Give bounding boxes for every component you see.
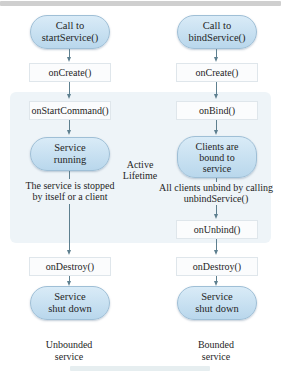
clients-bound-line2: bound to — [199, 152, 234, 163]
right-shut-down-line2: shut down — [195, 303, 238, 315]
arrowhead-right-3 — [214, 130, 218, 135]
right-on-destroy-label: onDestroy() — [193, 261, 241, 272]
arrowhead-right-2 — [214, 94, 218, 99]
active-lifetime-label-line1: Active — [115, 159, 165, 170]
cropped-text-top — [0, 1, 281, 6]
on-bind-label: onBind() — [199, 105, 235, 116]
service-running-line2: running — [54, 154, 87, 166]
arrowhead-left-3 — [67, 130, 71, 135]
bounded-caption-line2: service — [176, 351, 256, 363]
unbind-note-line1: All clients unbind by calling — [150, 182, 281, 193]
unbounded-caption-line2: service — [29, 351, 109, 363]
bounded-caption-line1: Bounded — [176, 339, 256, 351]
active-lifetime-label: Active Lifetime — [115, 159, 165, 181]
clients-bound-line3: service — [203, 163, 231, 174]
bounded-caption: Bounded service — [176, 339, 256, 363]
on-bind-box: onBind() — [176, 101, 258, 120]
bind-service-line2: bindService() — [188, 32, 245, 44]
unbounded-caption-line1: Unbounded — [29, 339, 109, 351]
unbounded-caption: Unbounded service — [29, 339, 109, 363]
left-shut-down-line2: shut down — [48, 303, 91, 315]
left-on-create-box: onCreate() — [29, 63, 111, 82]
right-shut-down-line1: Service — [201, 291, 233, 303]
arrowhead-left-1 — [67, 57, 71, 62]
arrowhead-left-2 — [67, 94, 71, 99]
start-service-line2: startService() — [42, 32, 99, 44]
left-shut-down-node: Service shut down — [30, 286, 110, 320]
right-on-create-label: onCreate() — [196, 67, 239, 78]
bind-service-node: Call to bindService() — [177, 15, 257, 49]
clients-bound-node: Clients are bound to service — [177, 136, 257, 178]
start-service-node: Call to startService() — [30, 15, 110, 49]
stop-note: The service is stopped by itself or a cl… — [12, 180, 128, 202]
right-shut-down-node: Service shut down — [177, 286, 257, 320]
service-running-node: Service running — [30, 137, 110, 171]
right-on-destroy-box: onDestroy() — [176, 257, 258, 276]
left-shut-down-line1: Service — [54, 291, 86, 303]
right-on-create-box: onCreate() — [176, 63, 258, 82]
service-running-line1: Service — [54, 142, 86, 154]
clients-bound-line1: Clients are — [195, 141, 238, 152]
start-service-line1: Call to — [56, 20, 84, 32]
on-start-command-label: onStartCommand() — [31, 105, 108, 116]
arrow-left-4 — [69, 204, 70, 251]
unbind-note-line2: unbindService() — [150, 193, 281, 204]
stop-note-line1: The service is stopped — [12, 180, 128, 191]
arrowhead-right-4 — [214, 214, 218, 219]
on-unbind-label: onUnbind() — [194, 224, 241, 235]
arrowhead-right-1 — [214, 57, 218, 62]
unbind-note: All clients unbind by calling unbindServ… — [150, 182, 281, 204]
on-unbind-box: onUnbind() — [176, 220, 258, 239]
bind-service-line1: Call to — [203, 20, 231, 32]
left-on-destroy-label: onDestroy() — [46, 261, 94, 272]
on-start-command-box: onStartCommand() — [29, 101, 111, 120]
left-on-destroy-box: onDestroy() — [29, 257, 111, 276]
cropped-text-bottom — [70, 366, 210, 371]
line-left-running-down — [69, 171, 70, 179]
arrowhead-left-4 — [67, 250, 71, 255]
stop-note-line2: by itself or a client — [12, 191, 128, 202]
left-on-create-label: onCreate() — [49, 67, 92, 78]
arrowhead-right-5 — [214, 250, 218, 255]
